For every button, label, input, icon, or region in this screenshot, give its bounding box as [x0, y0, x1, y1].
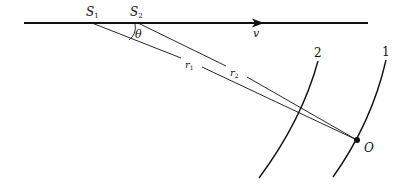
r2-line-segment-b — [247, 77, 357, 140]
r1-label: r1 — [185, 59, 194, 71]
observer-point — [354, 137, 360, 143]
wavefront-2-label: 2 — [314, 46, 322, 60]
wavefront-2-arc — [259, 61, 318, 178]
source1-label: S1 — [86, 5, 99, 20]
wavefront-1-label: 1 — [382, 45, 390, 59]
velocity-label: v — [253, 27, 260, 40]
r1-line-segment-b — [202, 67, 357, 140]
theta-label: θ — [135, 28, 142, 41]
observer-label: O — [364, 141, 374, 155]
r2-label: r2 — [230, 67, 239, 79]
wavefront-1-arc — [333, 60, 386, 177]
moving-source-diagram: S1 S2 θ v r1 r2 2 1 O — [0, 0, 404, 186]
r2-line-segment-a — [138, 23, 226, 66]
source2-label: S2 — [130, 5, 143, 20]
